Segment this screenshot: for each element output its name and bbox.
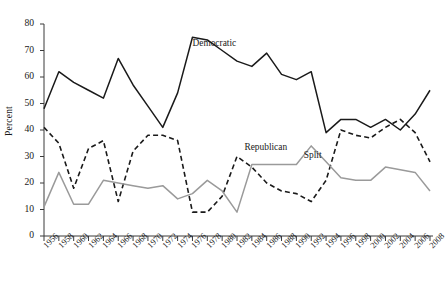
y-tick-label: 30: [12, 150, 34, 161]
series-label-republican: Republican: [244, 142, 287, 152]
series-line-democratic: [44, 37, 430, 132]
y-tick-label: 0: [12, 229, 34, 240]
y-tick-label: 40: [12, 123, 34, 134]
y-tick-label: 50: [12, 97, 34, 108]
series-label-democratic: Democratic: [192, 38, 236, 48]
series-line-republican: [44, 119, 430, 212]
y-tick-label: 60: [12, 70, 34, 81]
series-line-split: [44, 146, 430, 212]
y-tick-label: 70: [12, 44, 34, 55]
y-tick-label: 80: [12, 17, 34, 28]
series-label-split: Split: [304, 150, 322, 160]
y-tick-label: 20: [12, 176, 34, 187]
y-tick-label: 10: [12, 203, 34, 214]
